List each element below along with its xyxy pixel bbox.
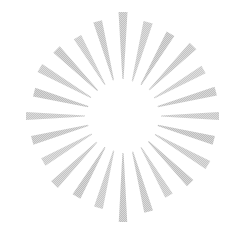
graphic-canvas [0,0,246,232]
sunburst-starburst-graphic [0,0,246,232]
